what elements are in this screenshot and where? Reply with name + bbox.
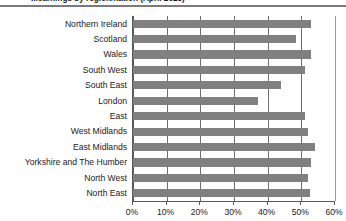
bar-row — [133, 186, 335, 201]
bar[interactable] — [133, 174, 308, 182]
category-label: North West — [0, 173, 127, 183]
title-divider — [0, 5, 346, 7]
x-axis-tick-labels: 0%10%20%30%40%50%60% — [0, 207, 346, 221]
bar-row — [133, 139, 335, 154]
bar[interactable] — [133, 189, 310, 197]
bar-row — [133, 109, 335, 124]
category-label: North East — [0, 188, 127, 198]
bar-row — [133, 31, 335, 46]
x-tick — [166, 201, 167, 205]
x-tick — [267, 201, 268, 205]
bar-series — [133, 16, 335, 201]
plot-wrapper: Northern IrelandScotlandWalesSouth WestS… — [0, 9, 346, 221]
bar[interactable] — [133, 35, 296, 43]
category-label: West Midlands — [0, 126, 127, 136]
bar[interactable] — [133, 50, 311, 58]
bar[interactable] — [133, 158, 311, 166]
bar[interactable] — [133, 20, 311, 28]
plot-area — [132, 16, 336, 201]
category-label: East — [0, 111, 127, 121]
x-tick — [300, 201, 301, 205]
bar-row — [133, 47, 335, 62]
x-tick-label: 20% — [191, 207, 208, 218]
x-tick — [132, 201, 133, 205]
bar-chart-figure: ...earnings by region/nation (April 2023… — [0, 0, 346, 221]
category-label: Wales — [0, 49, 127, 59]
bar-row — [133, 16, 335, 31]
category-label: South West — [0, 65, 127, 75]
x-tick-label: 10% — [157, 207, 174, 218]
category-label: South East — [0, 80, 127, 90]
bar[interactable] — [133, 112, 305, 120]
x-tick-label: 0% — [126, 207, 138, 218]
bar[interactable] — [133, 143, 315, 151]
bar-row — [133, 62, 335, 77]
x-axis-ticks — [132, 201, 335, 206]
x-tick-label: 50% — [292, 207, 309, 218]
x-tick-label: 30% — [224, 207, 241, 218]
bar-row — [133, 124, 335, 139]
category-label: Northern Ireland — [0, 19, 127, 29]
bar-row — [133, 170, 335, 185]
x-tick-label: 60% — [325, 207, 342, 218]
bar[interactable] — [133, 97, 258, 105]
bar[interactable] — [133, 66, 305, 74]
category-axis-labels: Northern IrelandScotlandWalesSouth WestS… — [0, 16, 130, 201]
chart-title: ...earnings by region/nation (April 2023… — [31, 0, 185, 4]
bar-row — [133, 93, 335, 108]
bar[interactable] — [133, 128, 308, 136]
bar-row — [133, 78, 335, 93]
x-tick — [199, 201, 200, 205]
x-tick — [334, 201, 335, 205]
x-tick — [233, 201, 234, 205]
category-label: Yorkshire and The Humber — [0, 157, 127, 167]
category-label: East Midlands — [0, 142, 127, 152]
bar[interactable] — [133, 81, 281, 89]
bar-row — [133, 155, 335, 170]
category-label: London — [0, 96, 127, 106]
category-label: Scotland — [0, 34, 127, 44]
x-tick-label: 40% — [258, 207, 275, 218]
